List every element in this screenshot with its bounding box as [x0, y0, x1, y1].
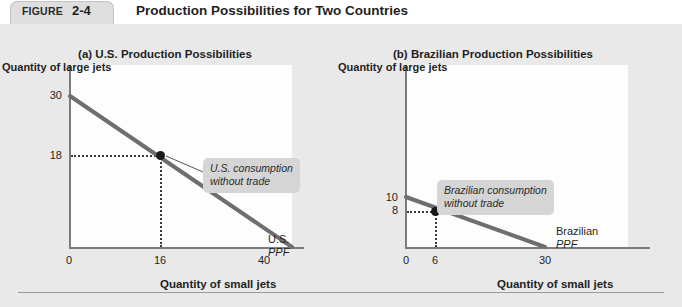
- figure-body: (a) U.S. Production Possibilities Quanti…: [0, 24, 682, 282]
- figure-header: FIGURE 2-4 Production Possibilities for …: [0, 0, 682, 25]
- figure-title: Production Possibilities for Two Countri…: [136, 3, 408, 18]
- callout-brazil-consumption: Brazilian consumption without trade: [437, 180, 554, 215]
- ppf-label-brazil: Brazilian PPF: [556, 225, 598, 251]
- ppf-label-brazil-line1: Brazilian: [556, 225, 598, 237]
- figure-label: FIGURE: [22, 5, 63, 17]
- ppf-line-brazil: [0, 24, 682, 307]
- figure-bottom-rule: [18, 292, 664, 293]
- ppf-label-brazil-line2: PPF: [556, 238, 577, 250]
- callout-brazil-line2: without trade: [444, 197, 504, 209]
- figure-number: 2-4: [72, 3, 91, 18]
- callout-brazil-line1: Brazilian consumption: [444, 184, 547, 196]
